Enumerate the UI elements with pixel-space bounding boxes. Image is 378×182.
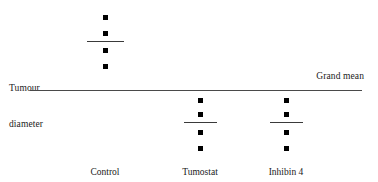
data-point [103,48,108,53]
group-inhibin-4: Inhibin 4 [0,0,90,182]
data-point [284,130,289,135]
x-axis-tick-label: Tumostat [182,166,218,178]
data-point [103,64,108,69]
x-axis-tick-label: Inhibin 4 [269,166,304,178]
grand-mean-label: Grand mean [316,70,364,82]
group-mean-line [87,41,124,42]
data-point [198,130,203,135]
data-point [198,112,203,117]
data-point [198,146,203,151]
group-mean-line [270,122,303,123]
group-mean-line [184,122,217,123]
data-point [284,112,289,117]
data-point [103,15,108,20]
data-point [103,31,108,36]
dot-plot-figure: Tumour diameter Grand mean ControlTumost… [0,0,378,182]
data-point [198,98,203,103]
data-point [284,98,289,103]
data-point [284,146,289,151]
x-axis-tick-label: Control [90,166,119,178]
